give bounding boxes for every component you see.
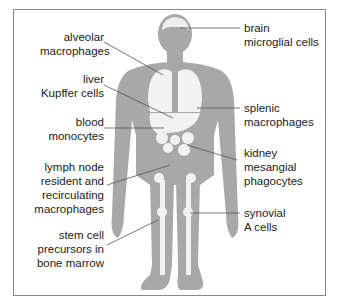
label-line: mesangial	[244, 160, 303, 174]
label-line: Kupffer cells	[30, 86, 104, 100]
label-line: macrophages	[20, 202, 104, 216]
label-blood-monocytes: blood monocytes	[40, 115, 104, 143]
label-line: liver	[30, 72, 104, 86]
label-kidney-mesangial: kidney mesangial phagocytes	[244, 146, 303, 188]
label-line: splenic	[244, 101, 314, 115]
label-line: phagocytes	[244, 174, 303, 188]
label-line: bone marrow	[20, 256, 104, 270]
label-line: brain	[244, 21, 319, 35]
label-line: monocytes	[40, 129, 104, 143]
label-line: macrophages	[244, 115, 314, 129]
label-line: kidney	[244, 146, 303, 160]
label-line: blood	[40, 115, 104, 129]
label-line: resident and	[20, 174, 104, 188]
label-line: alveolar	[40, 30, 104, 44]
label-line: lymph node	[20, 160, 104, 174]
label-line: microglial cells	[244, 35, 319, 49]
label-line: macrophages	[40, 44, 104, 58]
label-alveolar-macrophages: alveolar macrophages	[40, 30, 104, 58]
label-lymph-node: lymph node resident and recirculating ma…	[20, 160, 104, 216]
label-splenic-macrophages: splenic macrophages	[244, 101, 314, 129]
label-synovial-a-cells: synovial A cells	[244, 206, 286, 234]
label-line: precursors in	[20, 242, 104, 256]
label-line: recirculating	[20, 188, 104, 202]
label-brain-microglial: brain microglial cells	[244, 21, 319, 49]
label-line: synovial	[244, 206, 286, 220]
label-line: A cells	[244, 220, 286, 234]
label-stem-cell: stem cell precursors in bone marrow	[20, 228, 104, 270]
label-liver-kupffer: liver Kupffer cells	[30, 72, 104, 100]
label-line: stem cell	[20, 228, 104, 242]
